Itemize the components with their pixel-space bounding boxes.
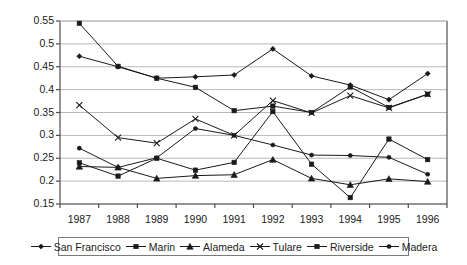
legend-item-madera[interactable]: Madera xyxy=(378,241,438,253)
legend-label: San Francisco xyxy=(54,241,121,253)
chart-legend: San FranciscoMarinAlamedaTulareRiverside… xyxy=(58,237,409,256)
legend-item-riverside[interactable]: Riverside xyxy=(306,241,374,253)
data-point-marker xyxy=(387,155,391,159)
triangle-marker-icon xyxy=(179,241,201,252)
data-point-marker xyxy=(387,137,391,141)
data-point-marker xyxy=(271,143,275,147)
y-tick-label: 0.15 xyxy=(14,197,54,209)
legend-label: Alameda xyxy=(203,241,244,253)
square-marker-icon xyxy=(125,241,147,252)
series-line xyxy=(79,23,427,112)
series-alameda xyxy=(76,156,431,187)
data-point-marker xyxy=(232,108,236,112)
data-point-marker xyxy=(271,104,275,108)
series-line xyxy=(79,112,427,198)
data-point-marker xyxy=(348,153,352,157)
data-point-marker xyxy=(309,153,313,157)
data-point-marker xyxy=(77,21,81,25)
data-point-marker xyxy=(193,126,197,130)
legend-label: Tulare xyxy=(273,241,302,253)
y-tick-label: 0.35 xyxy=(14,106,54,118)
dot-marker-icon xyxy=(378,241,400,252)
legend-item-san-francisco[interactable]: San Francisco xyxy=(30,241,121,253)
data-point-marker xyxy=(270,156,276,162)
y-tick-label: 0.4 xyxy=(14,83,54,95)
data-point-marker xyxy=(309,162,313,166)
data-point-marker xyxy=(232,160,236,164)
legend-item-marin[interactable]: Marin xyxy=(125,241,175,253)
y-tick-label: 0.45 xyxy=(14,60,54,72)
line-chart: 0.150.20.250.30.350.40.450.50.55 1987198… xyxy=(0,0,467,265)
x-tick-label: 1996 xyxy=(404,213,452,225)
data-point-marker xyxy=(77,146,81,150)
data-point-marker xyxy=(77,161,81,165)
data-point-marker xyxy=(271,109,275,113)
series-san-francisco xyxy=(77,46,431,102)
y-tick-label: 0.25 xyxy=(14,151,54,163)
series-marin xyxy=(77,21,430,115)
diamond-marker-icon xyxy=(30,241,52,252)
data-point-marker xyxy=(347,93,353,99)
data-point-marker xyxy=(270,98,276,104)
series-madera xyxy=(77,126,430,176)
data-point-marker xyxy=(308,175,314,181)
series-tulare xyxy=(76,91,430,146)
data-point-marker xyxy=(193,74,198,79)
square-marker-icon xyxy=(306,241,328,252)
legend-label: Marin xyxy=(149,241,175,253)
data-point-marker xyxy=(387,244,391,248)
y-tick-label: 0.55 xyxy=(14,14,54,26)
data-point-marker xyxy=(116,165,120,169)
data-point-marker xyxy=(155,76,159,80)
data-point-marker xyxy=(193,85,197,89)
legend-label: Madera xyxy=(402,241,438,253)
data-point-marker xyxy=(77,54,82,59)
data-point-marker xyxy=(192,116,198,122)
cross-marker-icon xyxy=(249,241,271,252)
data-point-marker xyxy=(348,85,352,89)
legend-label: Riverside xyxy=(330,241,374,253)
data-point-marker xyxy=(116,64,120,68)
y-tick-label: 0.2 xyxy=(14,174,54,186)
plot-area xyxy=(0,0,467,265)
data-point-marker xyxy=(426,172,430,176)
series-riverside xyxy=(77,109,430,199)
legend-item-tulare[interactable]: Tulare xyxy=(249,241,302,253)
series-line xyxy=(79,49,427,100)
data-point-marker xyxy=(425,157,429,161)
y-tick-label: 0.5 xyxy=(14,37,54,49)
y-tick-label: 0.3 xyxy=(14,128,54,140)
data-point-marker xyxy=(155,156,159,160)
data-point-marker xyxy=(116,174,120,178)
data-point-marker xyxy=(76,102,82,108)
data-point-marker xyxy=(232,133,236,137)
data-point-marker xyxy=(193,168,197,172)
data-point-marker xyxy=(315,244,319,248)
data-point-marker xyxy=(348,195,352,199)
data-point-marker xyxy=(38,244,43,249)
legend-item-alameda[interactable]: Alameda xyxy=(179,241,244,253)
data-point-marker xyxy=(134,244,138,248)
